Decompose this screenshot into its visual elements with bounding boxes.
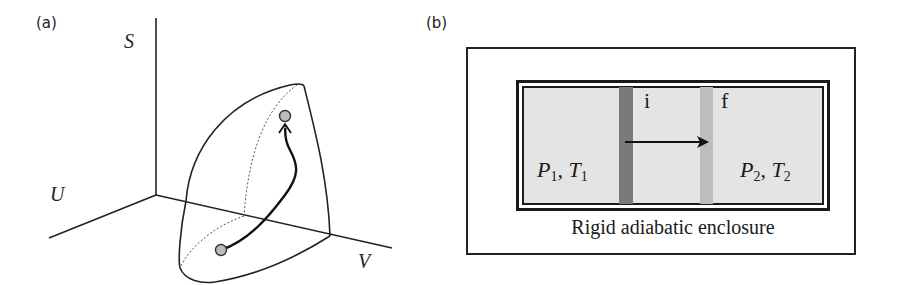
enclosure-caption: Rigid adiabatic enclosure: [516, 216, 830, 239]
piston-movement-arrow: [0, 0, 899, 285]
left-state-label: P1, T1: [537, 157, 588, 185]
right-state-label: P2, T2: [740, 157, 791, 185]
